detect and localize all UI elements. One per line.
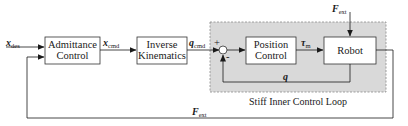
signal-f-ext-top: Fext: [331, 3, 347, 15]
svg-text:Control: Control: [56, 50, 88, 61]
inner-loop-caption: Stiff Inner Control Loop: [249, 96, 347, 107]
svg-text:Fext: Fext: [331, 3, 347, 15]
svg-text:+: +: [214, 37, 220, 48]
block-inverse-kinematics: Inverse Kinematics: [137, 37, 187, 64]
svg-text:Kinematics: Kinematics: [138, 50, 186, 61]
signal-q: q: [283, 71, 288, 82]
svg-text:Position: Position: [254, 39, 289, 50]
svg-text:Admittance: Admittance: [48, 39, 97, 50]
block-admittance-control: Admittance Control: [45, 37, 100, 64]
svg-text:qcmd: qcmd: [189, 37, 206, 49]
block-position-control: Position Control: [246, 37, 296, 64]
svg-text:-: -: [226, 51, 230, 62]
svg-text:Inverse: Inverse: [147, 39, 178, 50]
svg-text:xcmd: xcmd: [102, 37, 120, 49]
signal-x-cmd: xcmd: [102, 37, 120, 49]
svg-text:Robot: Robot: [337, 45, 363, 56]
block-robot: Robot: [324, 37, 376, 64]
signal-f-ext-feedback: Fext: [191, 106, 207, 118]
svg-text:Fext: Fext: [191, 106, 207, 118]
block-diagram: Stiff Inner Control Loop xdes Admittance…: [0, 0, 408, 126]
signal-q-cmd: qcmd: [189, 37, 206, 49]
svg-text:Control: Control: [255, 50, 287, 61]
